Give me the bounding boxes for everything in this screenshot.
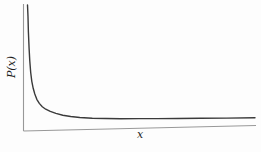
distribution-figure: P(x) x bbox=[0, 0, 261, 152]
plot-canvas bbox=[0, 0, 261, 152]
distribution-curve bbox=[28, 5, 256, 119]
y-axis-label: P(x) bbox=[6, 56, 17, 78]
x-axis-label: x bbox=[137, 129, 143, 140]
